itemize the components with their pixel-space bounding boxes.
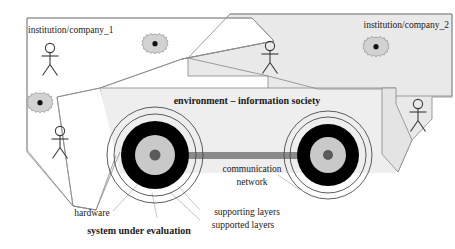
label-hardware: hardware [74, 208, 109, 218]
leader-supported-layers [170, 192, 200, 220]
label-supported-layers: supported layers [212, 220, 275, 230]
center-dot-left [150, 150, 161, 161]
diagram-canvas: institution/company_1 institution/compan… [0, 0, 455, 249]
label-institution-company-2: institution/company_2 [364, 20, 450, 30]
center-dot-right [323, 150, 333, 160]
gear-company1-top-icon [142, 33, 168, 53]
label-institution-company-1: institution/company_1 [28, 25, 114, 35]
label-communication-network-line2: network [236, 177, 267, 187]
leader-hardware [113, 182, 140, 211]
label-environment: environment – information society [174, 95, 321, 106]
gear-company1-left-icon [27, 92, 53, 112]
label-communication-network-line1: communication [222, 164, 281, 174]
leader-system-under-evaluation [152, 193, 157, 218]
leader-supporting-layers [178, 186, 200, 210]
label-supporting-layers: supporting layers [214, 207, 280, 217]
system-node-right[interactable] [284, 111, 372, 199]
label-system-under-evaluation: system under evaluation [87, 225, 191, 236]
gear-company2-icon [363, 36, 389, 56]
